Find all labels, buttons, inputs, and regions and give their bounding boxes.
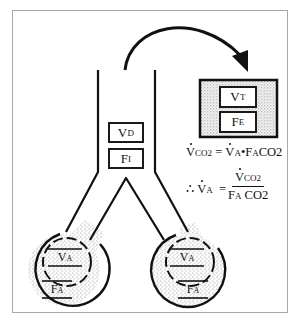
expired-fraction-main: F: [231, 114, 238, 130]
eq1-rhs-gas: CO2: [259, 145, 283, 159]
eq2-equals: =: [219, 182, 226, 196]
left-alveolar-fraction-sub: A: [57, 286, 63, 295]
eq2-lhs-main: V: [197, 182, 206, 197]
right-alveolar-fraction-sub: A: [193, 286, 199, 295]
tidal-volume-sub: T: [240, 92, 246, 102]
expired-fraction-box: FE: [219, 111, 257, 133]
eq2-denominator: FA CO2: [228, 187, 268, 203]
eq1-lhs-main: V: [186, 145, 195, 160]
right-alveolar-fraction-label: FA: [173, 282, 213, 297]
eq1-equals: =: [215, 145, 222, 159]
eq2-num-sub: CO2: [244, 173, 261, 183]
left-alveolar-volume-sub: A: [66, 254, 72, 263]
tidal-volume-box: VT: [219, 86, 257, 108]
inspired-fraction-box: FI: [108, 148, 144, 169]
eq2-den-main: F: [228, 188, 235, 202]
inspired-fraction-sub: I: [128, 154, 131, 164]
right-alveolar-volume-label: VA: [167, 250, 207, 265]
co2-output-equation: VCO2 = VA•FACO2: [186, 145, 282, 160]
eq1-lhs-sub: CO2: [195, 148, 212, 158]
inspired-fraction-main: F: [121, 151, 128, 167]
right-alveolar-volume-sub: A: [188, 254, 194, 263]
eq2-numerator: VCO2: [232, 170, 264, 187]
eq2-den-gas: CO2: [245, 188, 269, 202]
eq2-lhs-sub: A: [206, 185, 213, 195]
alveolar-ventilation-fraction: VCO2 FA CO2: [228, 170, 268, 203]
eq1-rhs-f-sub: A: [252, 148, 259, 158]
dead-space-volume-box: VD: [108, 122, 144, 143]
dead-space-volume-sub: D: [127, 128, 134, 138]
left-alveolar-volume-label: VA: [45, 250, 85, 265]
dead-space-volume-main: V: [118, 125, 128, 141]
expired-fraction-sub: E: [239, 117, 245, 127]
left-alveolar-fraction-label: FA: [37, 282, 77, 297]
alveolar-ventilation-equation-lhs: ∴ VA =: [186, 181, 226, 197]
flow-arrow: [125, 28, 248, 72]
eq2-therefore: ∴: [186, 182, 194, 196]
lung-diagram-graphic: [0, 0, 298, 322]
eq2-den-sub: A: [235, 191, 242, 201]
eq2-num-main: V: [235, 170, 244, 185]
eq1-rhs-v-sub: A: [234, 148, 241, 158]
tidal-volume-main: V: [230, 89, 240, 105]
